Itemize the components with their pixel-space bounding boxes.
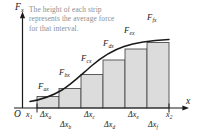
table-row — [59, 89, 81, 109]
y-axis — [20, 12, 25, 109]
force-label-cx: Fcx — [81, 54, 91, 63]
annotation-note: The height of each strip represents the … — [29, 5, 121, 33]
y-axis-label: Fx — [15, 3, 24, 13]
strip-bars — [37, 43, 169, 109]
table-row — [103, 60, 125, 108]
origin-label: O — [14, 110, 21, 120]
table-row — [81, 75, 103, 109]
tick-label-x1: x1 — [26, 111, 32, 119]
interval-label-f: Δxf — [148, 121, 158, 129]
interval-label-a: Δxa — [40, 111, 51, 119]
tick-label-x2: x2 — [166, 111, 172, 119]
interval-label-e: Δxe — [128, 111, 139, 119]
force-vs-position-figure: The height of each strip represents the … — [0, 0, 198, 134]
x-axis-label: x — [186, 97, 190, 107]
force-label-ax: Fax — [38, 82, 49, 91]
force-label-ex: Fex — [124, 26, 134, 35]
force-label-fx: Ffx — [147, 13, 156, 22]
table-row — [147, 43, 169, 109]
interval-label-c: Δxc — [84, 111, 95, 119]
interval-label-d: Δxd — [104, 121, 115, 129]
table-row — [37, 97, 59, 109]
interval-label-b: Δxb — [60, 121, 71, 129]
table-row — [125, 49, 147, 108]
force-label-bx: Fbx — [59, 68, 70, 77]
force-label-dx: Fdx — [103, 39, 114, 48]
